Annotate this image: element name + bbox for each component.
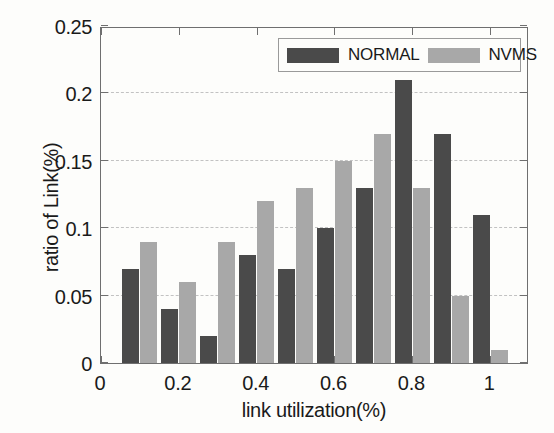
x-tick-mark [334, 28, 335, 35]
y-tick-mark [520, 25, 527, 26]
bar-normal-0.9 [434, 134, 451, 363]
y-axis-title: ratio of Link(%) [40, 88, 63, 328]
bar-normal-0.2 [161, 309, 178, 363]
x-tick-label: 0.6 [303, 372, 363, 395]
x-tick-label: 0.4 [226, 372, 286, 395]
x-tick-label: 0.2 [148, 372, 208, 395]
bar-chart-figure: 00.050.10.150.20.25 ratio of Link(%) 00.… [0, 0, 554, 433]
legend-entry-normal: NORMAL [279, 39, 420, 71]
legend-label-nvms: NVMS [489, 45, 537, 65]
gridline [101, 92, 527, 93]
y-tick-mark [520, 227, 527, 228]
bar-nvms-1 [491, 350, 508, 363]
bar-normal-0.7 [356, 188, 373, 363]
bar-nvms-0.6 [335, 161, 352, 363]
bar-nvms-0.3 [218, 242, 235, 363]
x-tick-mark [412, 28, 413, 35]
gridline [101, 160, 527, 161]
y-tick-label: 0.25 [8, 17, 92, 37]
plot-area [100, 27, 528, 364]
bar-nvms-0.7 [374, 134, 391, 363]
y-tick-mark [101, 295, 108, 296]
bar-normal-0.1 [122, 269, 139, 363]
y-tick-mark [520, 362, 527, 363]
y-tick-mark [101, 92, 108, 93]
x-tick-label: 0 [70, 372, 130, 395]
x-tick-mark [101, 28, 102, 35]
y-tick-mark [520, 92, 527, 93]
bar-normal-0.3 [200, 336, 217, 363]
x-tick-mark [257, 28, 258, 35]
bar-nvms-0.8 [413, 188, 430, 363]
x-tick-mark [179, 28, 180, 35]
y-tick-mark [101, 25, 108, 26]
bar-normal-0.6 [317, 228, 334, 363]
legend-swatch-normal-icon [287, 48, 339, 63]
bar-nvms-0.4 [257, 201, 274, 363]
y-tick-mark [101, 160, 108, 161]
legend-entry-nvms: NVMS [420, 39, 537, 71]
legend-label-normal: NORMAL [348, 45, 420, 65]
legend: NORMAL NVMS [278, 38, 521, 72]
bar-normal-0.8 [395, 80, 412, 363]
x-tick-label: 1 [459, 372, 519, 395]
gridline [101, 227, 527, 228]
bar-nvms-0.1 [140, 242, 157, 363]
y-tick-mark [101, 362, 108, 363]
bar-nvms-0.5 [296, 188, 313, 363]
x-tick-mark [490, 28, 491, 35]
bar-nvms-0.2 [179, 282, 196, 363]
y-tick-mark [520, 295, 527, 296]
bar-normal-0.5 [278, 269, 295, 363]
bar-normal-0.4 [239, 255, 256, 363]
y-tick-label: 0 [8, 354, 92, 374]
bar-normal-1 [473, 215, 490, 363]
bar-nvms-0.9 [452, 296, 469, 363]
y-tick-mark [101, 227, 108, 228]
legend-swatch-nvms-icon [428, 48, 480, 63]
y-tick-mark [520, 160, 527, 161]
x-tick-label: 0.8 [381, 372, 441, 395]
x-axis-title: link utilization(%) [100, 399, 528, 422]
